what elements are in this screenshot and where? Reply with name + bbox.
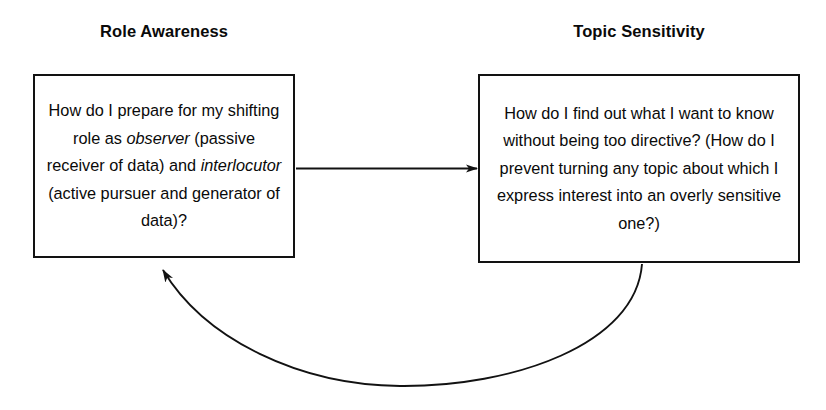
heading-topic-sensitivity: Topic Sensitivity xyxy=(478,22,800,41)
concept-box-topic-sensitivity: How do I find out what I want to know wi… xyxy=(478,74,800,263)
edge-topic-to-role-curve xyxy=(163,264,642,386)
concept-box-role-awareness: How do I prepare for my shifting role as… xyxy=(33,74,295,258)
concept-box-role-awareness-text: How do I prepare for my shifting role as… xyxy=(35,97,293,235)
heading-role-awareness: Role Awareness xyxy=(33,22,295,41)
concept-box-topic-sensitivity-text: How do I find out what I want to know wi… xyxy=(480,100,798,238)
edge-topic-to-role xyxy=(163,264,642,386)
diagram-canvas: Role Awareness Topic Sensitivity How do … xyxy=(0,0,826,410)
